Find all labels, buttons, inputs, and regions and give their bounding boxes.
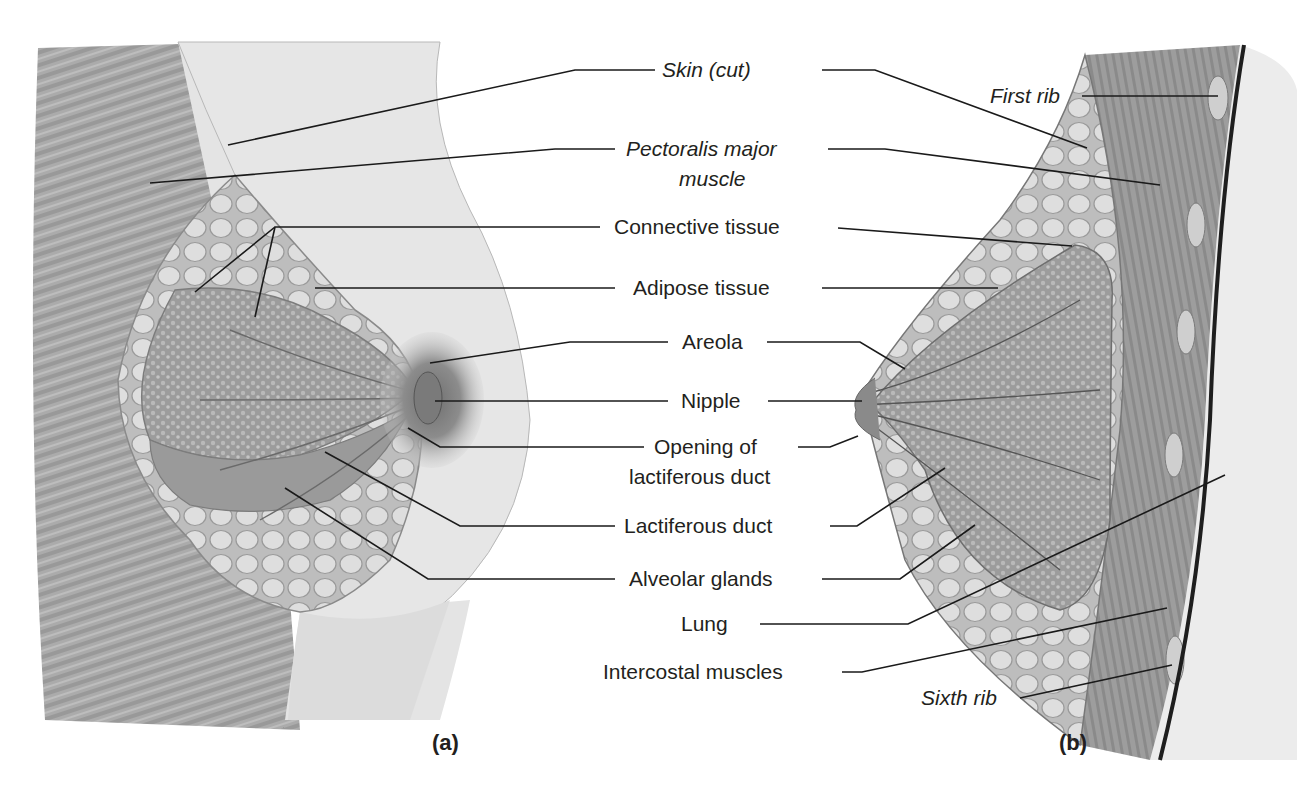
- label-nipple: Nipple: [681, 389, 741, 413]
- label-lactiferous-duct: Lactiferous duct: [624, 514, 772, 538]
- label-first-rib: First rib: [990, 84, 1060, 108]
- label-opening-lactiferous-duct-line1: Opening of: [654, 435, 757, 459]
- label-pectoralis-major-line1: Pectoralis major: [626, 137, 777, 161]
- label-alveolar-glands: Alveolar glands: [629, 567, 773, 591]
- label-areola: Areola: [682, 330, 743, 354]
- panel-label-b: (b): [1059, 730, 1087, 756]
- label-skin-cut: Skin (cut): [662, 58, 751, 82]
- label-intercostal-muscles: Intercostal muscles: [603, 660, 783, 684]
- panel-label-a: (a): [432, 730, 459, 756]
- label-connective-tissue: Connective tissue: [614, 215, 780, 239]
- label-pectoralis-major-line2: muscle: [679, 167, 746, 191]
- label-adipose-tissue: Adipose tissue: [633, 276, 770, 300]
- panel-b-illustration: [855, 45, 1297, 760]
- label-sixth-rib: Sixth rib: [921, 686, 997, 710]
- label-opening-lactiferous-duct-line2: lactiferous duct: [629, 465, 770, 489]
- panel-a-illustration: [33, 42, 530, 730]
- label-lung: Lung: [681, 612, 728, 636]
